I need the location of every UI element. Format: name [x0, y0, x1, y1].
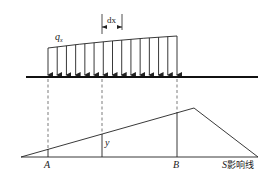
influence-line-diagram: qx dx y A B S影响线: [0, 0, 275, 182]
load-arrows: [48, 36, 177, 75]
point-a-label: A: [43, 159, 51, 170]
influence-line-label: S影响线: [222, 159, 254, 170]
point-b-label: B: [173, 159, 179, 170]
dx-label: dx: [107, 15, 117, 25]
load-label: qx: [55, 31, 63, 43]
projection-lines: [48, 79, 177, 148]
influence-line: [21, 108, 258, 157]
influence-polyline: [21, 108, 258, 157]
ordinate-y-label: y: [104, 137, 110, 148]
distributed-load: qx: [48, 31, 177, 75]
